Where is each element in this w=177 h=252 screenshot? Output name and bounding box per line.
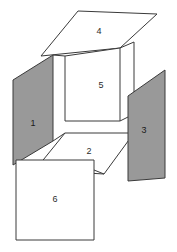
face-5-label: 5	[98, 80, 103, 90]
face-1-label: 1	[30, 118, 35, 128]
face-4-label: 4	[96, 26, 101, 36]
unfolded-cube-diagram: 1 2 3 4 5 6	[0, 0, 177, 252]
face-2-label: 2	[86, 146, 91, 156]
face-1-shape	[13, 55, 53, 165]
edge-back-to-right	[120, 117, 128, 121]
cube-net-svg: 1 2 3 4 5 6	[0, 0, 177, 252]
face-5-shape	[65, 48, 120, 121]
face-6-label: 6	[52, 194, 57, 204]
edge-left-to-back	[53, 55, 65, 56]
face-3-label: 3	[141, 125, 146, 135]
